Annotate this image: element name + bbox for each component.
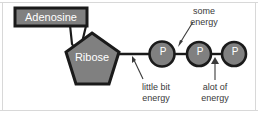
alot-of-energy-line-1: alot of (191, 82, 239, 93)
atp-molecule-diagram: Adenosine Ribose P P P some energy littl… (0, 0, 258, 113)
some-energy-line-2: energy (178, 17, 230, 28)
some-energy-line-1: some (178, 6, 230, 17)
little-bit-energy-annotation: little bit energy (128, 82, 184, 104)
phosphate-label-2: P (190, 46, 210, 57)
alot-of-energy-line-2: energy (191, 93, 239, 104)
some-energy-annotation: some energy (178, 6, 230, 28)
little-bit-energy-line-2: energy (128, 93, 184, 104)
alot-of-energy-arrowhead-icon (211, 57, 219, 64)
ribose-label: Ribose (66, 51, 118, 63)
phosphate-label-1: P (153, 46, 173, 57)
some-energy-arrowhead-icon (178, 40, 183, 47)
little-bit-energy-line-1: little bit (128, 82, 184, 93)
little-bit-energy-arrow-line (134, 60, 143, 79)
phosphate-label-3: P (225, 46, 245, 57)
alot-of-energy-annotation: alot of energy (191, 82, 239, 104)
adenosine-label: Adenosine (18, 11, 84, 23)
